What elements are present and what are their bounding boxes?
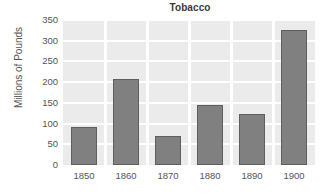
y-tick-250: 250: [18, 56, 58, 66]
x-tick-1880: 1880: [189, 170, 231, 181]
gridline-vertical: [230, 20, 233, 165]
x-tick-1890: 1890: [231, 170, 273, 181]
y-tick-100: 100: [18, 119, 58, 129]
plot-area: [63, 20, 315, 165]
y-tick-50: 50: [18, 139, 58, 149]
gridline-vertical: [104, 20, 107, 165]
bar-1890: [239, 114, 265, 165]
y-tick-350: 350: [18, 15, 58, 25]
bar-1900: [281, 30, 307, 165]
y-tick-300: 300: [18, 36, 58, 46]
x-tick-1900: 1900: [273, 170, 315, 181]
bar-1880: [197, 105, 223, 165]
y-tick-150: 150: [18, 98, 58, 108]
x-tick-1870: 1870: [147, 170, 189, 181]
bar-1860: [113, 79, 139, 165]
y-tick-0: 0: [18, 160, 58, 170]
x-tick-1850: 1850: [63, 170, 105, 181]
bar-1850: [71, 127, 97, 165]
gridline-vertical: [188, 20, 191, 165]
x-tick-1860: 1860: [105, 170, 147, 181]
y-tick-200: 200: [18, 77, 58, 87]
bar-1870: [155, 136, 181, 165]
chart-title: Tobacco: [62, 2, 318, 14]
gridline-vertical: [146, 20, 149, 165]
bar-chart: Tobacco Millions of Pounds 0501001502002…: [0, 0, 322, 194]
gridline-vertical: [272, 20, 275, 165]
